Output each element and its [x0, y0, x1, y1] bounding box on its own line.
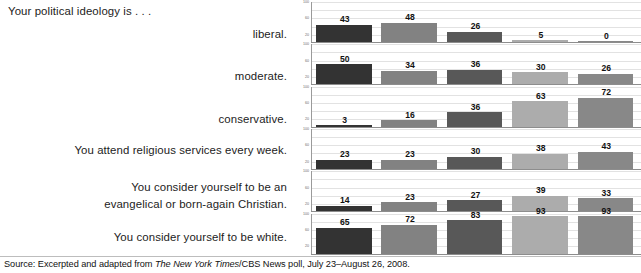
bar-slot: 72: [377, 214, 442, 254]
bar[interactable]: [316, 206, 372, 212]
bar-chart-panels: 1006020434826501006020503436302610060203…: [296, 2, 641, 256]
bar-value-label: 83: [443, 211, 508, 220]
bar-value-label: 23: [312, 150, 377, 159]
bar-slot: 93: [508, 214, 573, 254]
bar-slot: 48: [377, 2, 442, 42]
y-axis-tick-60: 60: [296, 101, 309, 105]
bar-slot: 43: [312, 2, 377, 42]
bar[interactable]: [578, 74, 634, 84]
panel-plot-area: 100602043482650: [296, 2, 641, 43]
bar[interactable]: [512, 154, 568, 169]
y-axis-tick-20: 20: [296, 202, 309, 206]
bar[interactable]: [578, 216, 634, 253]
bar-slot: 23: [377, 129, 442, 169]
bar-slot: 72: [574, 87, 639, 127]
bar-slot: 83: [443, 214, 508, 254]
bar-slot: 0: [574, 2, 639, 42]
panel-plot-area: 10060206572839393: [296, 214, 641, 255]
bar[interactable]: [578, 41, 634, 42]
bar[interactable]: [578, 98, 634, 127]
bar[interactable]: [316, 64, 372, 84]
bar-value-label: 0: [574, 32, 639, 41]
bar-slot: 63: [508, 87, 573, 127]
prompt-religious-services: You attend religious services every week…: [74, 143, 287, 157]
bar[interactable]: [512, 72, 568, 84]
bar[interactable]: [447, 220, 503, 253]
panel-plot-area: 1006020316366372: [296, 87, 641, 128]
bars-container: 1423273933: [312, 171, 639, 211]
bar-slot: 23: [312, 129, 377, 169]
bar[interactable]: [447, 70, 503, 84]
bar[interactable]: [316, 125, 372, 126]
bar[interactable]: [578, 152, 634, 169]
y-axis-tick-20: 20: [296, 33, 309, 37]
x-axis-line: [311, 127, 641, 128]
x-axis-line: [311, 169, 641, 170]
panel-plot-area: 10060205034363026: [296, 44, 641, 85]
bar-value-label: 33: [574, 189, 639, 198]
y-axis-tick-20: 20: [296, 75, 309, 79]
bar-value-label: 48: [377, 13, 442, 22]
bar[interactable]: [512, 101, 568, 126]
prompt-evangelical-line1: You consider yourself to be an: [131, 180, 287, 194]
prompt-column: Your political ideology is . . . liberal…: [0, 0, 293, 255]
bar[interactable]: [381, 225, 437, 254]
y-axis-tick-100: 100: [296, 0, 309, 4]
bar[interactable]: [381, 23, 437, 42]
bar-value-label: 36: [443, 103, 508, 112]
bar-value-label: 93: [574, 207, 639, 216]
bar-value-label: 5: [508, 31, 573, 40]
bar-value-label: 34: [377, 61, 442, 70]
bar-value-label: 26: [574, 64, 639, 73]
bar-slot: 3: [312, 87, 377, 127]
bar-panel-1: 10060205034363026: [296, 44, 641, 85]
x-axis-line: [311, 84, 641, 85]
y-axis-tick-100: 100: [296, 212, 309, 216]
bar-value-label: 14: [312, 196, 377, 205]
bar-value-label: 38: [508, 144, 573, 153]
bar[interactable]: [512, 40, 568, 42]
y-axis-tick-20: 20: [296, 117, 309, 121]
x-axis-line: [311, 254, 641, 255]
bar-value-label: 63: [508, 92, 573, 101]
bar-value-label: 26: [443, 22, 508, 31]
bar-slot: 43: [574, 129, 639, 169]
bar[interactable]: [447, 157, 503, 169]
bar-value-label: 65: [312, 218, 377, 227]
source-suffix: /CBS News poll, July 23–August 26, 2008.: [239, 259, 410, 269]
bar-value-label: 39: [508, 186, 573, 195]
bars-container: 316366372: [312, 87, 639, 127]
y-axis-tick-60: 60: [296, 59, 309, 63]
bar[interactable]: [316, 160, 372, 169]
bar-value-label: 50: [312, 55, 377, 64]
bar[interactable]: [381, 71, 437, 85]
bars-container: 5034363026: [312, 44, 639, 84]
y-axis-tick-60: 60: [296, 186, 309, 190]
bar-value-label: 43: [312, 15, 377, 24]
bar[interactable]: [316, 228, 372, 254]
bar-value-label: 30: [443, 147, 508, 156]
bar-slot: 30: [443, 129, 508, 169]
source-note: Source: Excerpted and adapted from The N…: [4, 258, 410, 270]
prompt-moderate: moderate.: [235, 69, 287, 83]
bar[interactable]: [381, 160, 437, 169]
prompt-conservative: conservative.: [219, 112, 287, 126]
bar[interactable]: [381, 202, 437, 211]
source-prefix: Source: Excerpted and adapted from: [4, 259, 155, 269]
y-axis-tick-100: 100: [296, 42, 309, 46]
bar[interactable]: [512, 216, 568, 253]
bar-value-label: 23: [377, 193, 442, 202]
bar-slot: 27: [443, 171, 508, 211]
bar-value-label: 23: [377, 150, 442, 159]
panel-plot-area: 10060202323303843: [296, 129, 641, 170]
bar-slot: 23: [377, 171, 442, 211]
bar-slot: 50: [312, 44, 377, 84]
bar-slot: 14: [312, 171, 377, 211]
y-axis-tick-20: 20: [296, 160, 309, 164]
bar[interactable]: [447, 112, 503, 126]
bar[interactable]: [316, 25, 372, 42]
figure-lead-text: Your political ideology is . . .: [8, 4, 151, 18]
bar[interactable]: [381, 120, 437, 126]
bar[interactable]: [447, 32, 503, 42]
bar-slot: 36: [443, 87, 508, 127]
